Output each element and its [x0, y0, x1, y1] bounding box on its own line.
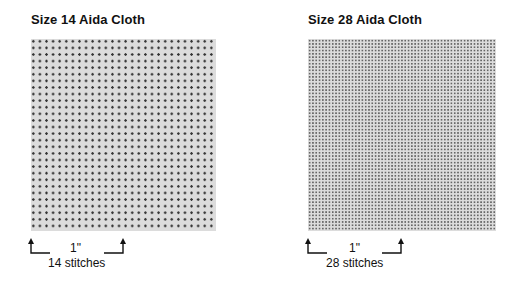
right-measure: 1"	[349, 241, 360, 255]
right-count: 28 stitches	[326, 256, 383, 270]
right-arrows-icon	[0, 0, 511, 285]
